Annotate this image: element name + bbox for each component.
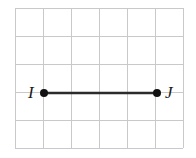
segment-layer	[0, 0, 196, 158]
geometry-figure: I J	[0, 0, 196, 158]
endpoint-dot-j	[153, 89, 161, 97]
point-label-i: I	[28, 84, 34, 101]
endpoint-dot-i	[40, 89, 48, 97]
point-label-j: J	[165, 84, 173, 101]
